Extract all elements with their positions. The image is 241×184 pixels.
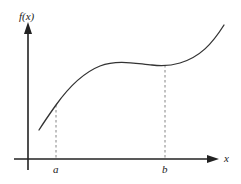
function-graph <box>0 0 241 184</box>
point-a-label: a <box>53 164 59 175</box>
x-axis-label: x <box>224 153 229 164</box>
y-axis-label: f(x) <box>19 11 34 22</box>
function-curve <box>39 25 224 130</box>
y-axis-arrowhead-icon <box>24 22 32 34</box>
x-axis-arrowhead-icon <box>207 155 219 163</box>
point-b-label: b <box>162 164 168 175</box>
